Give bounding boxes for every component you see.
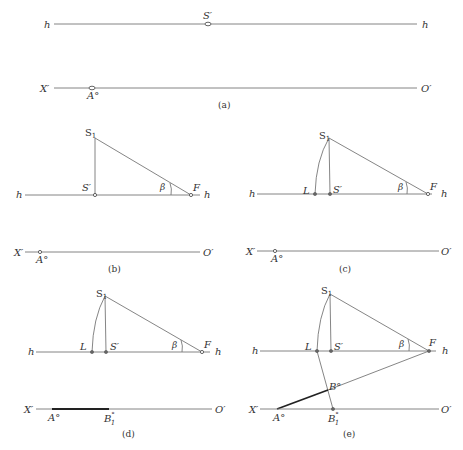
label-s1: S1 — [321, 285, 332, 298]
panel-c: h h S1 L S′ F β X′ O′ A° (c) — [245, 130, 452, 274]
label-s-prime: S′ — [110, 341, 120, 352]
point-b1 — [331, 407, 334, 410]
label-a: A° — [35, 254, 48, 265]
vertical-s1-s-prime — [329, 138, 330, 194]
label-s1: S1 — [96, 288, 107, 301]
point-f — [426, 192, 429, 195]
label-s1: S1 — [319, 130, 330, 143]
panel-b: h h S1 S′ F β X′ O′ A° (b) — [13, 127, 214, 274]
point-l — [90, 350, 93, 353]
ground-label-right: O′ — [215, 404, 226, 415]
label-beta: β — [398, 339, 404, 349]
caption-c: (c) — [339, 264, 351, 274]
point-f — [427, 349, 430, 352]
label-l: L — [79, 341, 87, 352]
horizon-label-right: h — [441, 188, 447, 199]
angle-arc — [170, 183, 171, 195]
label-f: F — [203, 339, 212, 350]
point-s-prime — [329, 349, 332, 352]
caption-d: (d) — [122, 429, 135, 439]
angle-arc — [406, 182, 407, 194]
point-l — [313, 192, 316, 195]
horizon-label-right: h — [204, 189, 210, 200]
arc-s1-l — [317, 294, 330, 351]
label-f: F — [428, 337, 437, 348]
label-l: L — [302, 185, 310, 196]
caption-e: (e) — [343, 429, 355, 439]
line-l-b1 — [317, 351, 333, 409]
horizon-label-right: h — [442, 345, 448, 356]
label-beta: β — [171, 340, 177, 350]
line-s1-f — [330, 294, 429, 351]
label-l: L — [304, 341, 312, 352]
label-f: F — [429, 181, 438, 192]
arc-s1-l — [92, 296, 105, 352]
label-b1: B°1 — [327, 411, 339, 427]
point-f — [200, 350, 203, 353]
label-s-prime: S′ — [82, 182, 92, 193]
line-f-b — [328, 351, 429, 390]
point-s-prime — [205, 22, 211, 26]
ground-label-left: X′ — [13, 247, 24, 258]
label-f: F — [192, 182, 201, 193]
label-beta: β — [159, 182, 165, 192]
horizon-label-left: h — [16, 189, 22, 200]
line-s1-f — [105, 296, 202, 352]
label-s-prime: S′ — [334, 341, 344, 352]
ground-label-right: O′ — [441, 404, 452, 415]
label-b: B° — [328, 381, 341, 392]
label-s-prime: S′ — [333, 184, 343, 195]
vertical-s1-s-prime — [105, 296, 106, 352]
horizon-label-right: h — [422, 19, 428, 30]
label-b1: B°1 — [103, 411, 115, 427]
horizon-label-left: h — [249, 188, 255, 199]
ground-label-left: X′ — [248, 404, 259, 415]
label-s1: S1 — [85, 127, 96, 140]
panel-d: h h S1 L S′ F β X′ O′ A° B°1 (d) — [23, 288, 226, 439]
caption-a: (a) — [218, 100, 230, 110]
point-s-prime — [328, 192, 331, 195]
panel-a: h h S′ X′ O′ A° (a) — [39, 10, 432, 110]
point-s-prime — [104, 350, 107, 353]
segment-a-b — [277, 390, 328, 409]
label-s-prime: S′ — [203, 10, 213, 21]
horizon-label-left: h — [28, 346, 34, 357]
ground-label-right: O′ — [441, 246, 452, 257]
ground-label-right: O′ — [421, 83, 432, 94]
label-a: A° — [270, 253, 283, 264]
label-a: A° — [86, 90, 99, 101]
label-a: A° — [47, 412, 60, 423]
point-f — [189, 193, 192, 196]
ground-label-right: O′ — [203, 247, 214, 258]
point-s-prime — [93, 193, 96, 196]
caption-b: (b) — [108, 264, 121, 274]
horizon-label-left: h — [252, 345, 258, 356]
label-beta: β — [397, 182, 403, 192]
label-a: A° — [272, 412, 285, 423]
ground-label-left: X′ — [245, 246, 256, 257]
angle-arc — [181, 340, 182, 352]
panel-e: h h S1 L S′ F β B° X′ O′ A° B°1 (e) — [248, 285, 452, 439]
vertical-s1-s-prime — [330, 294, 331, 351]
line-s1-f — [95, 138, 191, 195]
angle-arc — [408, 339, 409, 351]
ground-label-left: X′ — [39, 83, 50, 94]
line-s1-f — [329, 138, 428, 194]
horizon-label-left: h — [44, 19, 50, 30]
horizon-label-right: h — [215, 346, 221, 357]
ground-label-left: X′ — [23, 404, 34, 415]
perspective-construction-figure: h h S′ X′ O′ A° (a) h h S1 S′ F β X′ O′ … — [0, 0, 463, 450]
point-l — [315, 349, 318, 352]
arc-s1-l — [315, 138, 329, 194]
